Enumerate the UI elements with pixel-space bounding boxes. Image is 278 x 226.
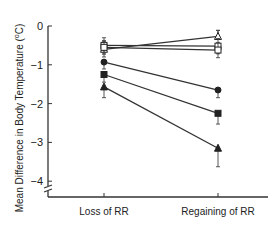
x-categories: Loss of RRRegaining of RR	[79, 206, 254, 217]
axis-break-icon	[44, 185, 52, 192]
y-axis-title: Mean Difference in Body Temperature (oC)	[13, 24, 25, 213]
series-line	[101, 83, 222, 167]
x-category-label: Loss of RR	[79, 206, 128, 217]
y-tick-label: −1	[30, 59, 43, 71]
y-tick-label: −4	[30, 175, 43, 187]
chart: 0−1−2−3−4 Mean Difference in Body Temper…	[0, 0, 278, 226]
series-line	[101, 38, 221, 54]
y-tick-label: 0	[37, 20, 43, 32]
series-line	[101, 59, 221, 98]
series-line	[101, 30, 222, 57]
y-tick-label: −3	[30, 136, 43, 148]
series-line	[101, 72, 221, 125]
y-tick-label: −2	[30, 98, 43, 110]
y-ticks: 0−1−2−3−4	[30, 20, 52, 187]
series-group	[101, 30, 222, 166]
x-category-label: Regaining of RR	[181, 206, 254, 217]
axes	[44, 26, 268, 197]
